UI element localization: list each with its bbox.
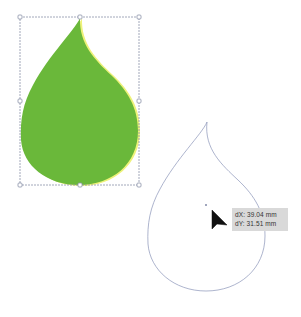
resize-handle-bottom-left[interactable]: [18, 183, 22, 187]
resize-handle-middle-left[interactable]: [18, 99, 22, 103]
delta-x-label: dX: 39.04 mm: [235, 210, 285, 219]
resize-handle-bottom-center[interactable]: [78, 183, 82, 187]
artboard-canvas[interactable]: dX: 39.04 mm dY: 31.51 mm: [0, 0, 301, 317]
resize-handle-top-right[interactable]: [137, 15, 141, 19]
resize-handle-middle-right[interactable]: [137, 99, 141, 103]
resize-handle-top-center[interactable]: [78, 15, 82, 19]
arrow-cursor-icon: [212, 210, 227, 229]
outline-drop-preview: [148, 122, 265, 291]
center-point-marker: [205, 204, 207, 206]
delta-y-label: dY: 31.51 mm: [235, 219, 285, 228]
resize-handle-bottom-right[interactable]: [137, 183, 141, 187]
move-delta-tooltip: dX: 39.04 mm dY: 31.51 mm: [232, 208, 288, 231]
filled-drop-shape[interactable]: [21, 18, 140, 186]
resize-handle-top-left[interactable]: [18, 15, 22, 19]
